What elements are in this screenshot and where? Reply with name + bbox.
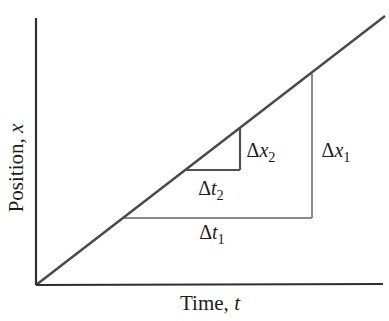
y-axis-variable: x (4, 124, 28, 133)
delta-symbol: Δ (198, 177, 211, 199)
annotation-delta-t2: Δt2 (198, 178, 224, 202)
subscript-2: 2 (217, 187, 224, 203)
variable-x: x (259, 139, 268, 161)
delta-symbol: Δ (322, 139, 335, 161)
variable-x: x (334, 139, 343, 161)
subscript-1: 1 (343, 149, 350, 165)
x-axis-label: Time, t (180, 293, 240, 314)
annotation-delta-x1: Δx1 (322, 140, 351, 164)
subscript-1: 1 (218, 231, 225, 247)
position-time-graph: Δx2 Δt2 Δx1 Δt1 Time, t Position, x (0, 0, 389, 321)
annotation-delta-t1: Δt1 (199, 222, 225, 246)
annotation-delta-x2: Δx2 (247, 140, 276, 164)
delta-symbol: Δ (247, 139, 260, 161)
x-axis-variable: t (234, 291, 240, 315)
y-axis-label-text: Position, (4, 138, 28, 212)
x-axis (36, 284, 383, 285)
x-axis-label-text: Time, (180, 291, 229, 315)
delta-symbol: Δ (199, 221, 212, 243)
y-axis-label: Position, x (6, 124, 27, 213)
subscript-2: 2 (268, 149, 275, 165)
